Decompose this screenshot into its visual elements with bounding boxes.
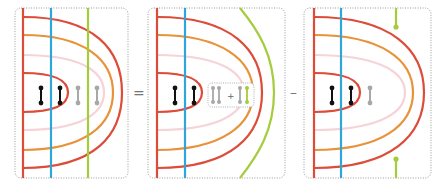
minus-sign: – xyxy=(290,85,297,99)
dumbbell-icon xyxy=(39,86,44,106)
dumbbell-icon xyxy=(192,86,197,106)
green-stub-top xyxy=(393,8,398,30)
inner-red-arc xyxy=(23,73,68,112)
diagram-svg: + xyxy=(0,0,445,189)
diagram-stage: + = – xyxy=(0,0,445,189)
orange-arc xyxy=(314,35,413,150)
panel-term1: + xyxy=(148,8,285,178)
dumbbell-icon xyxy=(173,86,178,106)
dumbbell-icon xyxy=(76,86,81,106)
dumbbell-icon xyxy=(95,86,100,106)
outer-red-arc xyxy=(23,17,122,168)
plus-sign: + xyxy=(227,91,235,101)
dumbbell-icon xyxy=(330,86,335,106)
inner-red-arc xyxy=(157,73,202,112)
inset-sum-box: + xyxy=(208,83,254,107)
equals-sign: = xyxy=(133,86,145,100)
pink-arc xyxy=(23,55,104,130)
dumbbell-icon xyxy=(58,86,63,106)
dumbbell-icon xyxy=(368,86,373,106)
dumbbell-icon xyxy=(349,86,354,106)
panel-lhs xyxy=(15,8,128,178)
panel-term2 xyxy=(304,8,431,178)
inner-red-arc xyxy=(314,73,360,112)
green-stub-bottom xyxy=(393,156,398,178)
